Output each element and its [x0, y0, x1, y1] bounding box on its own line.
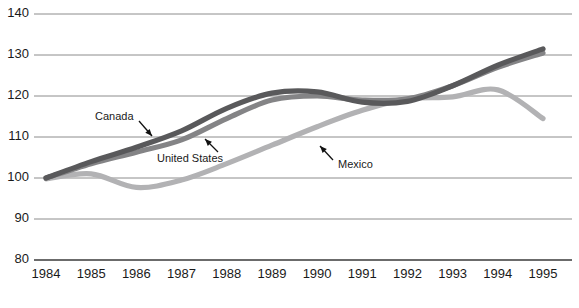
- x-tick-label: 1991: [348, 266, 377, 281]
- series-annotation-label: United States: [157, 152, 224, 164]
- y-tick-label: 100: [7, 169, 29, 184]
- x-tick-label: 1995: [529, 266, 558, 281]
- x-tick-label: 1985: [77, 266, 106, 281]
- line-chart: 1401301201101009080 19841985198619871988…: [0, 0, 579, 308]
- series-annotation-label: Canada: [95, 110, 134, 122]
- x-tick-label: 1986: [122, 266, 151, 281]
- x-tick-label: 1990: [303, 266, 332, 281]
- series-line-mexico: [46, 89, 543, 188]
- y-axis-tick-labels: 1401301201101009080: [7, 5, 29, 266]
- series-annotation-label: Mexico: [338, 158, 373, 170]
- y-tick-label: 80: [15, 251, 29, 266]
- x-axis-tick-labels: 1984198519861987198819891990199119921993…: [32, 266, 558, 281]
- chart-container: 1401301201101009080 19841985198619871988…: [0, 0, 579, 308]
- x-tick-label: 1989: [257, 266, 286, 281]
- y-tick-label: 110: [8, 128, 29, 143]
- y-tick-label: 120: [7, 87, 29, 102]
- y-tick-label: 90: [15, 210, 29, 225]
- x-tick-label: 1988: [212, 266, 241, 281]
- x-tick-label: 1984: [32, 266, 61, 281]
- y-tick-label: 130: [7, 46, 29, 61]
- x-tick-label: 1993: [438, 266, 467, 281]
- gridlines: [34, 14, 572, 260]
- x-tick-label: 1987: [167, 266, 196, 281]
- x-tick-label: 1994: [483, 266, 512, 281]
- y-tick-label: 140: [7, 5, 29, 20]
- x-tick-label: 1992: [393, 266, 422, 281]
